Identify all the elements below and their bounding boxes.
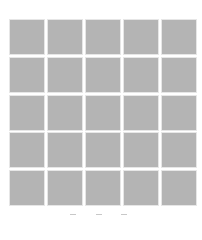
bottom-cutoff-marks (0, 214, 202, 217)
grid-tile-r2-c2[interactable] (48, 58, 82, 92)
grid-tile-r1-c3[interactable] (86, 20, 120, 54)
grid-tile-r3-c3[interactable] (86, 96, 120, 130)
cutoff-glyph (121, 214, 127, 215)
grid-tile-r4-c1[interactable] (10, 133, 44, 167)
grid-tile-r4-c3[interactable] (86, 133, 120, 167)
grid-tile-r3-c2[interactable] (48, 96, 82, 130)
grid-tile-r5-c5[interactable] (162, 171, 196, 205)
grid-tile-r1-c1[interactable] (10, 20, 44, 54)
grid-tile-r2-c1[interactable] (10, 58, 44, 92)
grid-tile-r4-c4[interactable] (124, 133, 158, 167)
grid-tile-r4-c5[interactable] (162, 133, 196, 167)
grid-tile-r3-c5[interactable] (162, 96, 196, 130)
grid-tile-r5-c2[interactable] (48, 171, 82, 205)
grid-tile-r5-c3[interactable] (86, 171, 120, 205)
tile-grid (10, 20, 196, 205)
grid-tile-r2-c3[interactable] (86, 58, 120, 92)
grid-tile-r3-c4[interactable] (124, 96, 158, 130)
grid-tile-r5-c4[interactable] (124, 171, 158, 205)
grid-tile-r4-c2[interactable] (48, 133, 82, 167)
grid-tile-r1-c2[interactable] (48, 20, 82, 54)
cutoff-glyph (96, 214, 102, 215)
grid-tile-r1-c4[interactable] (124, 20, 158, 54)
grid-tile-r1-c5[interactable] (162, 20, 196, 54)
grid-tile-r5-c1[interactable] (10, 171, 44, 205)
grid-tile-r3-c1[interactable] (10, 96, 44, 130)
cutoff-glyph (70, 214, 76, 215)
grid-tile-r2-c4[interactable] (124, 58, 158, 92)
grid-tile-r2-c5[interactable] (162, 58, 196, 92)
